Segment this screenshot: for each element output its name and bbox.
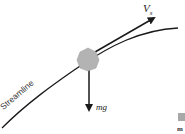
diagram-canvas [0,0,185,134]
clipped-text-fragment: m [177,125,185,131]
streamline-diagram: Vs mg Streamline m [0,0,185,134]
weight-label: mg [96,102,107,112]
velocity-vector-arrow [95,18,154,52]
velocity-label: Vs [143,2,152,17]
clipped-gray-box [178,113,185,121]
